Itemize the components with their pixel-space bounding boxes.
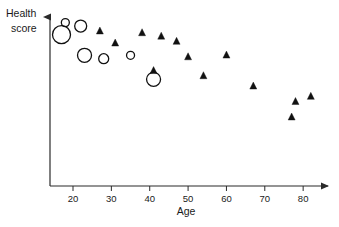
y-axis-title-line2: score [11,22,37,34]
data-point-triangle [307,92,314,99]
x-tick-label: 50 [183,193,194,204]
data-point-triangle [185,53,192,60]
x-tick-label: 60 [221,193,232,204]
data-point-circle [53,26,71,44]
x-axis-tick-labels: 20304050607080 [68,193,309,204]
data-point-triangle [139,29,146,36]
data-point-triangle [150,67,157,74]
data-point-circle [78,48,92,62]
series-filled-triangle-group [96,27,314,120]
scatter-chart: Health score Age 20304050607080 [0,0,339,227]
data-point-triangle [173,37,180,44]
data-point-triangle [292,98,299,105]
data-point-triangle [223,51,230,58]
x-axis-tick-marks [73,186,303,191]
data-point-circle [127,51,135,59]
x-tick-label: 20 [68,193,79,204]
x-tick-label: 70 [260,193,271,204]
x-tick-label: 30 [106,193,117,204]
data-point-triangle [96,27,103,34]
data-point-triangle [112,39,119,46]
data-point-circle [147,72,161,86]
y-axis-title-line1: Health [6,7,37,19]
data-point-triangle [158,32,165,39]
x-tick-label: 40 [144,193,155,204]
data-series-layer [53,19,315,120]
data-point-circle [99,54,109,64]
series-open-circle-group [53,19,161,87]
data-point-triangle [288,113,295,120]
data-point-triangle [200,72,207,79]
data-point-circle [75,20,87,32]
chart-canvas: Health score Age 20304050607080 [0,0,339,227]
data-point-triangle [250,82,257,89]
x-axis-title: Age [177,205,196,217]
x-tick-label: 80 [298,193,309,204]
